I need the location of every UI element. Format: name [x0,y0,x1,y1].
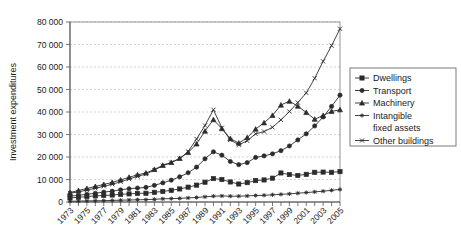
legend-item[interactable]: fixed assets [373,123,421,133]
marker-square [220,177,224,181]
marker-square [169,188,173,192]
marker-star [270,193,274,197]
marker-circle [85,192,89,196]
marker-circle [270,152,274,156]
legend-item-label: fixed assets [373,123,421,133]
y-axis-title: Investment expenditures [8,62,18,161]
marker-star [220,194,224,198]
marker-circle [119,188,123,192]
marker-star [338,187,342,191]
marker-square [203,180,207,184]
marker-star [237,194,241,198]
marker-circle [186,171,190,175]
chart-figure: 010 00020 00030 00040 00050 00060 00070 … [0,0,461,249]
marker-square [262,178,266,182]
marker-square [152,190,156,194]
marker-star [360,113,364,117]
series-other-buildings [68,27,342,196]
marker-circle [338,93,342,97]
data-series-group [68,27,343,204]
x-tick-label: 2005 [325,205,346,226]
marker-square [135,191,139,195]
marker-cross [270,125,274,129]
marker-circle [203,157,207,161]
marker-star [329,188,333,192]
marker-star [152,197,156,201]
marker-triangle [287,99,292,104]
marker-square [194,183,198,187]
marker-circle [296,138,300,142]
marker-circle [178,175,182,179]
marker-square [329,170,333,174]
marker-star [110,198,114,202]
x-tick-label: 2001 [291,205,312,226]
y-tick-label: 0 [58,197,63,207]
x-tick-label: 1975 [72,205,93,226]
marker-square [313,170,317,174]
marker-circle [228,159,232,163]
x-tick-label: 1997 [257,205,278,226]
series-line [70,101,340,192]
marker-star [68,199,72,203]
x-tick-label: 1989 [190,205,211,226]
x-tick-label: 1987 [173,205,194,226]
marker-circle [110,189,114,193]
x-axis-ticks [70,202,340,206]
marker-circle [313,124,317,128]
marker-cross [329,44,333,48]
y-tick-label: 20 000 [37,152,63,162]
marker-circle [152,183,156,187]
marker-circle [169,178,173,182]
marker-circle [287,144,291,148]
y-tick-label: 10 000 [37,175,63,185]
x-tick-label: 1993 [224,205,245,226]
marker-circle [135,186,139,190]
x-tick-label: 2003 [308,205,329,226]
marker-star [169,197,173,201]
legend-item-label: Dwellings [373,73,412,83]
marker-cross [287,109,291,113]
marker-square [270,176,274,180]
marker-circle [220,153,224,157]
x-tick-label: 1983 [139,205,160,226]
series-line [70,29,340,193]
y-tick-label: 50 000 [37,85,63,95]
marker-triangle [338,107,343,112]
y-tick-label: 60 000 [37,62,63,72]
marker-square [279,171,283,175]
x-tick-label: 1977 [89,205,110,226]
marker-circle [279,149,283,153]
marker-square [338,170,342,174]
marker-square [161,189,165,193]
marker-square [228,180,232,184]
marker-star [161,197,165,201]
marker-star [186,196,190,200]
y-tick-label: 40 000 [37,107,63,117]
marker-cross [321,59,325,63]
x-tick-label: 1981 [122,205,143,226]
marker-square [321,170,325,174]
marker-cross [313,76,317,80]
y-tick-label: 30 000 [37,130,63,140]
marker-star [85,199,89,203]
marker-star [76,199,80,203]
marker-cross [279,118,283,122]
marker-cross [304,91,308,95]
marker-star [194,195,198,199]
marker-circle [194,165,198,169]
marker-circle [93,191,97,195]
marker-star [313,190,317,194]
marker-star [262,193,266,197]
marker-triangle [278,103,283,108]
marker-square [360,76,364,80]
marker-square [287,172,291,176]
marker-star [127,198,131,202]
legend-item-label: Transport [373,86,412,96]
marker-star [93,199,97,203]
investment-expenditures-line-chart: 010 00020 00030 00040 00050 00060 00070 … [0,0,461,249]
marker-square [127,192,131,196]
marker-star [135,198,139,202]
x-tick-label: 1995 [241,205,262,226]
marker-star [254,193,258,197]
marker-square [254,179,258,183]
